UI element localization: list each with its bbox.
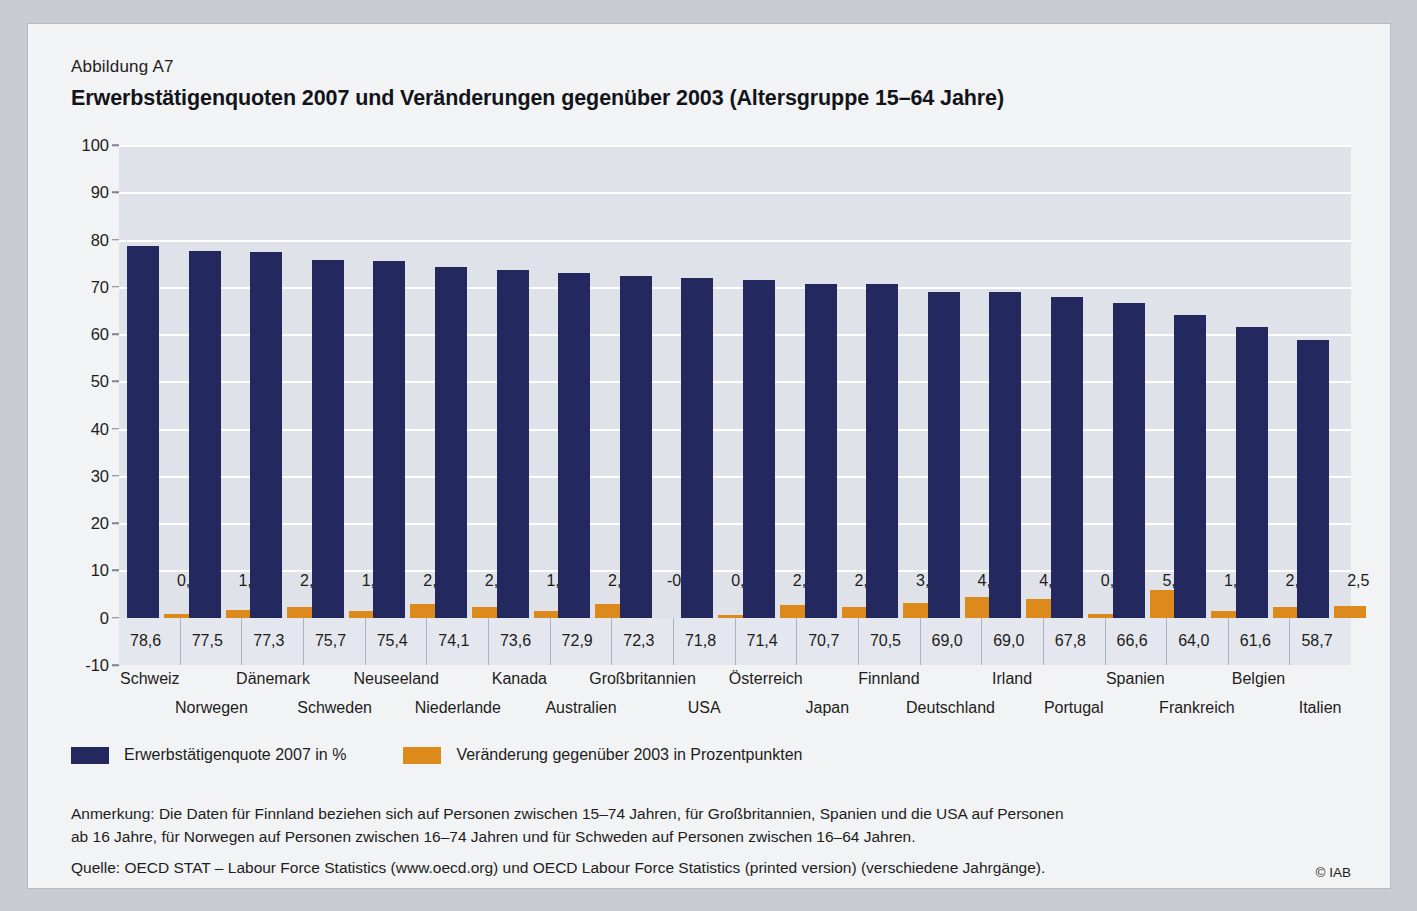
y-axis-tick-label: -10 xyxy=(85,656,109,675)
category-label: Schweden xyxy=(297,699,372,717)
bar-employment-rate xyxy=(805,284,837,618)
bar-group: 2,2 xyxy=(242,145,304,665)
employment-rate-value-cell: 64,0 xyxy=(1166,618,1228,665)
employment-rate-value-cell: 74,1 xyxy=(426,618,488,665)
figure-card: Abbildung A7 Erwerbstätigenquoten 2007 u… xyxy=(28,24,1390,888)
employment-rate-value-cell: 72,3 xyxy=(611,618,673,665)
category-label: Kanada xyxy=(492,670,547,688)
copyright-label: © IAB xyxy=(1316,865,1351,880)
bar-employment-rate xyxy=(1113,303,1145,618)
bar-group: 2,7 xyxy=(735,145,797,665)
bar-group: 2,3 xyxy=(427,145,489,665)
bar-employment-rate xyxy=(1297,340,1329,617)
employment-rate-value-cell: 70,7 xyxy=(796,618,858,665)
category-label-cell: Niederlande xyxy=(427,669,489,731)
bar-group: 1,7 xyxy=(181,145,243,665)
bar-group: 4,4 xyxy=(920,145,982,665)
employment-rate-value-cell: 75,7 xyxy=(303,618,365,665)
figure-page: Abbildung A7 Erwerbstätigenquoten 2007 u… xyxy=(0,0,1417,911)
figure-number: Abbildung A7 xyxy=(71,57,174,77)
employment-rate-value-cell: 73,6 xyxy=(488,618,550,665)
bar-employment-rate xyxy=(497,270,529,618)
employment-rate-value-cell: 67,8 xyxy=(1043,618,1105,665)
category-label-cell: Großbritannien xyxy=(612,669,674,731)
bar-group: 4,0 xyxy=(981,145,1043,665)
bar-employment-rate xyxy=(373,261,405,617)
category-label-cell: Dänemark xyxy=(242,669,304,731)
y-axis-tick-mark xyxy=(112,381,119,383)
y-axis-tick-mark xyxy=(112,617,119,619)
y-axis-tick-label: 60 xyxy=(91,325,109,344)
bar-employment-rate xyxy=(312,260,344,618)
bar-group: -0,3 xyxy=(612,145,674,665)
category-label: Dänemark xyxy=(236,670,310,688)
value-label-strip: 78,677,577,375,775,474,173,672,972,371,8… xyxy=(119,618,1351,665)
footnote-line-2: ab 16 Jahre, für Norwegen auf Personen z… xyxy=(71,825,1351,848)
bar-employment-rate xyxy=(1051,297,1083,618)
legend-swatch-blue xyxy=(71,747,109,764)
bar-employment-rate xyxy=(743,280,775,618)
employment-rate-value-cell: 78,6 xyxy=(119,618,180,665)
y-axis-tick-label: 0 xyxy=(100,608,109,627)
footnote-line-1: Anmerkung: Die Daten für Finnland bezieh… xyxy=(71,802,1351,825)
bar-group: 2,5 xyxy=(1289,145,1351,665)
y-axis-tick-label: 40 xyxy=(91,419,109,438)
category-label-cell: Frankreich xyxy=(1166,669,1228,731)
category-label-cell: Spanien xyxy=(1105,669,1167,731)
y-axis-tick-mark xyxy=(112,522,119,524)
bar-employment-rate xyxy=(928,292,960,618)
bar-group: 3,1 xyxy=(858,145,920,665)
bar-employment-rate xyxy=(558,273,590,618)
y-axis-tick-label: 70 xyxy=(91,277,109,296)
y-axis-tick-label: 30 xyxy=(91,466,109,485)
bar-change-value-label: 2,5 xyxy=(1332,572,1384,590)
bar-group: 2,9 xyxy=(365,145,427,665)
employment-rate-value-cell: 72,9 xyxy=(550,618,612,665)
category-label: Österreich xyxy=(729,670,803,688)
y-axis-tick-mark xyxy=(112,192,119,194)
bar-group: 2,3 xyxy=(1228,145,1290,665)
category-label-cell: Italien xyxy=(1289,669,1351,731)
y-axis-tick-label: 50 xyxy=(91,372,109,391)
bar-group: 1,4 xyxy=(304,145,366,665)
category-label: Frankreich xyxy=(1159,699,1235,717)
category-label-cell: Irland xyxy=(981,669,1043,731)
category-label-cell: Japan xyxy=(797,669,859,731)
plot-area: 0,71,72,21,42,92,31,42,9-0,30,62,72,33,1… xyxy=(119,145,1351,665)
bar-group: 0,7 xyxy=(1043,145,1105,665)
y-axis-tick-label: 20 xyxy=(91,514,109,533)
bar-employment-rate xyxy=(620,276,652,618)
figure-footer: Anmerkung: Die Daten für Finnland bezieh… xyxy=(71,802,1351,879)
legend-swatch-orange xyxy=(403,747,441,764)
category-label: Australien xyxy=(545,699,616,717)
bar-employment-rate xyxy=(989,292,1021,618)
category-label: Norwegen xyxy=(175,699,248,717)
category-label-cell: Deutschland xyxy=(920,669,982,731)
bar-group: 2,9 xyxy=(550,145,612,665)
bar-group: 0,7 xyxy=(119,145,181,665)
legend-item-change: Veränderung gegenüber 2003 in Prozentpun… xyxy=(403,746,802,764)
figure-title: Erwerbstätigenquoten 2007 und Veränderun… xyxy=(71,86,1004,111)
category-label: Irland xyxy=(992,670,1032,688)
bar-group: 5,9 xyxy=(1105,145,1167,665)
legend-item-quote: Erwerbstätigenquote 2007 in % xyxy=(71,746,346,764)
y-axis-tick-mark xyxy=(112,333,119,335)
category-axis-labels: SchweizNorwegenDänemarkSchwedenNeuseelan… xyxy=(119,669,1351,731)
legend-label-quote: Erwerbstätigenquote 2007 in % xyxy=(124,746,346,764)
category-label: Japan xyxy=(806,699,850,717)
employment-rate-value-cell: 71,4 xyxy=(735,618,797,665)
bar-employment-rate xyxy=(250,252,282,617)
employment-rate-value-cell: 66,6 xyxy=(1105,618,1167,665)
bar-employment-rate xyxy=(1236,327,1268,618)
y-axis-tick-label: 90 xyxy=(91,183,109,202)
employment-rate-value-cell: 71,8 xyxy=(673,618,735,665)
employment-rate-value-cell: 61,6 xyxy=(1228,618,1290,665)
y-axis-tick-mark xyxy=(112,144,119,146)
bar-series-container: 0,71,72,21,42,92,31,42,9-0,30,62,72,33,1… xyxy=(119,145,1351,665)
chart-legend: Erwerbstätigenquote 2007 in % Veränderun… xyxy=(71,746,802,764)
category-label-cell: Österreich xyxy=(735,669,797,731)
category-label-cell: Kanada xyxy=(489,669,551,731)
employment-rate-value-cell: 77,3 xyxy=(241,618,303,665)
employment-rate-value-cell: 77,5 xyxy=(180,618,242,665)
category-label-cell: Schweiz xyxy=(119,669,181,731)
